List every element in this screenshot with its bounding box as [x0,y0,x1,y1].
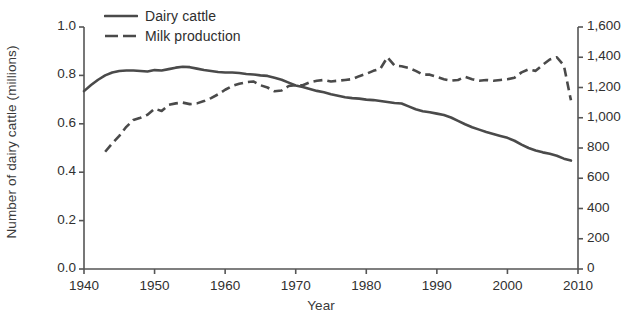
legend-item-dairy-cattle: Dairy cattle [104,6,241,26]
y-tick-label-right: 400 [587,200,637,215]
legend-dashed-line-icon [104,29,138,43]
legend-item-milk-production: Milk production [104,26,241,46]
y-tick-label-right: 800 [587,139,637,154]
x-tick-label: 1950 [125,278,185,293]
chart-container: Dairy cattle Milk production Number of d… [0,0,642,319]
chart-legend: Dairy cattle Milk production [104,6,241,46]
legend-label-milk-production: Milk production [145,28,241,44]
y-tick-label-right: 200 [587,230,637,245]
y-tick-label-left: 0.2 [30,212,76,227]
y-tick-label-left: 0.0 [30,260,76,275]
legend-solid-line-icon [104,9,138,23]
y-tick-label-right: 1,600 [587,18,637,33]
x-tick-label: 1940 [54,278,114,293]
legend-label-dairy-cattle: Dairy cattle [145,8,216,24]
y-tick-label-left: 0.8 [30,66,76,81]
y-tick-label-right: 1,200 [587,79,637,94]
chart-plot-area [0,0,642,319]
y-tick-label-right: 0 [587,260,637,275]
y-tick-label-left: 0.4 [30,163,76,178]
x-tick-label: 2000 [477,278,537,293]
x-tick-label: 2010 [548,278,608,293]
x-tick-label: 1990 [407,278,467,293]
y-tick-label-right: 1,000 [587,109,637,124]
x-tick-label: 1960 [195,278,255,293]
y-tick-label-right: 600 [587,169,637,184]
y-axis-left-title: Number of dairy cattle (millions) [4,2,22,282]
x-tick-label: 1970 [266,278,326,293]
x-axis-title: Year [0,298,642,313]
series-line-milk-production [105,57,571,152]
x-tick-label: 1980 [336,278,396,293]
y-tick-label-right: 1,400 [587,48,637,63]
y-tick-label-left: 0.6 [30,115,76,130]
y-tick-label-left: 1.0 [30,18,76,33]
